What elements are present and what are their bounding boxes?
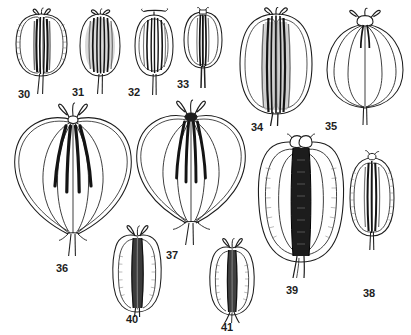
botanical-plate: 30: [0, 0, 411, 335]
figure-40: [106, 222, 168, 318]
figure-label-33: 33: [177, 78, 189, 90]
figure-31: [74, 4, 130, 96]
figure-label-40: 40: [126, 313, 138, 325]
figure-label-31: 31: [72, 86, 84, 98]
figure-35: [322, 4, 408, 126]
figure-38: [342, 146, 404, 252]
figure-39: [252, 130, 350, 280]
figure-label-41: 41: [221, 321, 233, 333]
figure-label-38: 38: [363, 287, 375, 299]
figure-label-36: 36: [56, 262, 68, 274]
figure-41: [202, 234, 262, 324]
figure-label-39: 39: [286, 284, 298, 296]
figure-30: [4, 4, 80, 96]
